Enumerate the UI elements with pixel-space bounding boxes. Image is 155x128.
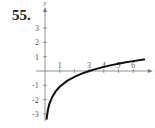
y-axis-arrow-icon — [43, 7, 47, 12]
y-tick-label: 1 — [35, 53, 39, 62]
y-tick-label: 2 — [35, 38, 39, 47]
y-tick-label: -3 — [32, 110, 39, 119]
y-tick-label: -2 — [32, 96, 39, 105]
x-tick-label: 3 — [87, 61, 91, 70]
ticks: 13456-3-2-1123 — [32, 24, 135, 119]
x-axis-label: x — [154, 68, 155, 76]
y-tick-label: 3 — [35, 24, 39, 33]
x-axis-arrow-icon — [148, 69, 153, 73]
log-curve-plot: xy 13456-3-2-1123 — [0, 0, 155, 128]
y-axis-label: y — [43, 0, 48, 7]
x-tick-label: 1 — [58, 61, 62, 70]
x-tick-label: 5 — [117, 61, 121, 70]
y-tick-label: -1 — [32, 81, 39, 90]
